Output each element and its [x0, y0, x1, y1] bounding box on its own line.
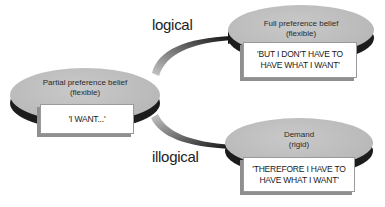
full-preference-statement-card: 'BUT I DON'T HAVE TO HAVE WHAT I WANT' — [243, 42, 357, 78]
demand-title: Demand — [225, 130, 373, 140]
demand-statement-line1: 'THEREFORE I HAVE TO — [252, 164, 346, 175]
full-preference-statement-line1: 'BUT I DON'T HAVE TO — [257, 49, 343, 60]
demand-statement-line2: HAVE WHAT I WANT' — [259, 175, 338, 186]
logical-label: logical — [152, 16, 192, 33]
partial-preference-subtitle: (flexible) — [10, 88, 160, 98]
full-preference-statement-line2: HAVE WHAT I WANT' — [260, 60, 339, 71]
partial-preference-statement: 'I WANT...' — [69, 114, 106, 125]
demand-statement-card: 'THEREFORE I HAVE TO HAVE WHAT I WANT' — [243, 157, 355, 192]
demand-subtitle: (rigid) — [225, 140, 373, 150]
partial-preference-statement-card: 'I WANT...' — [40, 104, 134, 134]
full-preference-title: Full preference belief — [228, 19, 374, 29]
full-preference-subtitle: (flexible) — [228, 29, 374, 39]
partial-preference-title: Partial preference belief — [10, 78, 160, 88]
belief-diagram: logical illogical Partial preference bel… — [0, 0, 385, 207]
illogical-label: illogical — [152, 148, 199, 165]
